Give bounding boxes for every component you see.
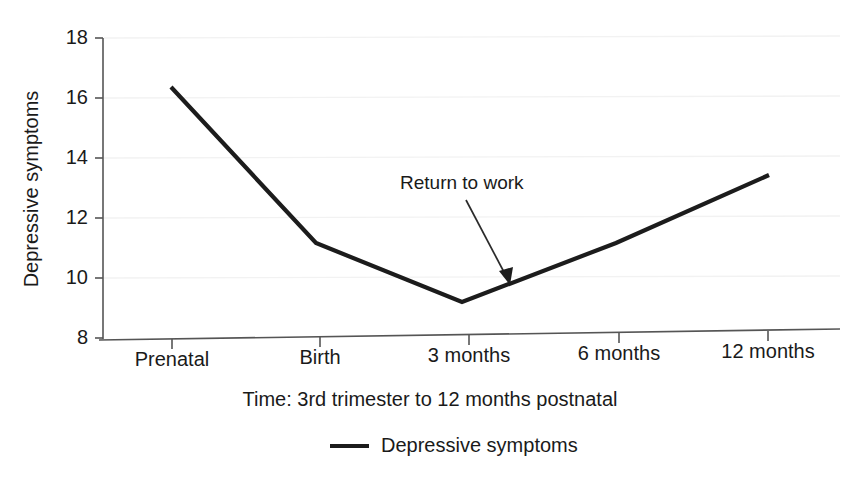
legend: Depressive symptoms <box>330 434 578 456</box>
y-tick-labels: 18 16 14 12 10 8 <box>66 26 88 348</box>
x-tick-label-3-months: 3 months <box>428 344 510 366</box>
x-tick-label-prenatal: Prenatal <box>135 348 210 370</box>
gridline-12 <box>104 216 840 218</box>
x-tick-label-6-months: 6 months <box>578 342 660 364</box>
y-tick-label-16: 16 <box>66 86 88 108</box>
gridline-18 <box>104 36 840 38</box>
y-tick-marks <box>95 38 103 338</box>
y-axis-title: Depressive symptoms <box>20 91 42 288</box>
x-axis-title: Time: 3rd trimester to 12 months postnat… <box>243 388 618 410</box>
gridlines <box>104 36 840 278</box>
annotation-label: Return to work <box>400 172 524 193</box>
x-tick-label-12-months: 12 months <box>721 340 814 362</box>
annotation-arrow-line <box>466 200 505 274</box>
line-chart: 18 16 14 12 10 8 Prenatal Birth 3 months… <box>0 0 846 487</box>
chart-page: 18 16 14 12 10 8 Prenatal Birth 3 months… <box>0 0 846 487</box>
annotation-return-to-work: Return to work <box>400 172 524 285</box>
legend-label-depressive-symptoms: Depressive symptoms <box>381 434 578 456</box>
gridline-14 <box>104 156 840 158</box>
gridline-16 <box>104 96 840 98</box>
y-tick-label-18: 18 <box>66 26 88 48</box>
series-line-depressive-symptoms <box>171 87 769 302</box>
y-tick-label-10: 10 <box>66 266 88 288</box>
y-tick-label-14: 14 <box>66 146 88 168</box>
x-tick-label-birth: Birth <box>299 346 340 368</box>
x-tick-labels: Prenatal Birth 3 months 6 months 12 mont… <box>135 340 815 370</box>
y-tick-label-8: 8 <box>77 326 88 348</box>
gridline-10 <box>104 276 840 278</box>
y-tick-label-12: 12 <box>66 206 88 228</box>
